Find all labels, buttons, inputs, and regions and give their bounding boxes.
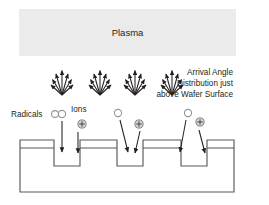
arrival-fan-2 (89, 71, 111, 96)
ion-particle-1 (78, 120, 86, 128)
radical-particle-2 (114, 109, 121, 116)
radical-particle-3 (184, 109, 191, 116)
trajectory-ion-2 (135, 131, 140, 153)
plasma-region: Plasma (19, 9, 236, 56)
annotation-line-3: above Wafer Surface (156, 90, 233, 99)
annotation-line-1: Arrival Angle (187, 68, 233, 77)
arrival-fan-3 (124, 71, 146, 96)
annotation-line-2: Distribution just (177, 79, 234, 88)
plasma-label: Plasma (112, 27, 144, 38)
figure-canvas: Plasma (0, 0, 269, 205)
trajectory-radical-3 (180, 120, 186, 152)
process-schematic-figure: Plasma (0, 0, 269, 205)
ion-particle-2 (135, 120, 143, 128)
arrival-fan-1 (51, 71, 73, 96)
radicals-label: Radicals (11, 110, 42, 119)
trajectory-radical-2 (120, 120, 128, 152)
trajectory-ion-3 (199, 130, 205, 153)
arrival-angle-annotation: Arrival Angle Distribution just above Wa… (156, 68, 233, 99)
ions-label: Ions (71, 105, 86, 114)
radical-legend-icon (52, 111, 59, 118)
legend-glyphs (52, 111, 59, 118)
ion-particle-3 (196, 118, 204, 126)
radical-particle-1 (58, 110, 65, 117)
